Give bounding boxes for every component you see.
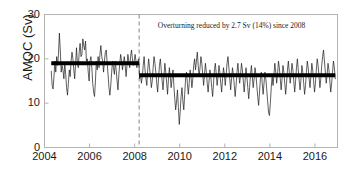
x-tick-label: 2006 [70, 150, 110, 162]
amoc-timeseries-figure: AMOC (Sv) 0102030 Overturning reduced by… [0, 0, 344, 172]
x-tick-label: 2012 [205, 150, 245, 162]
x-tick-label: 2014 [250, 150, 290, 162]
x-tick-label: 2008 [115, 150, 155, 162]
x-tick-label: 2004 [25, 150, 65, 162]
annotation-overturning-reduction: Overturning reduced by 2.7 Sv (14%) sinc… [158, 21, 305, 30]
x-tick-label: 2016 [295, 150, 335, 162]
x-tick-label: 2010 [160, 150, 200, 162]
